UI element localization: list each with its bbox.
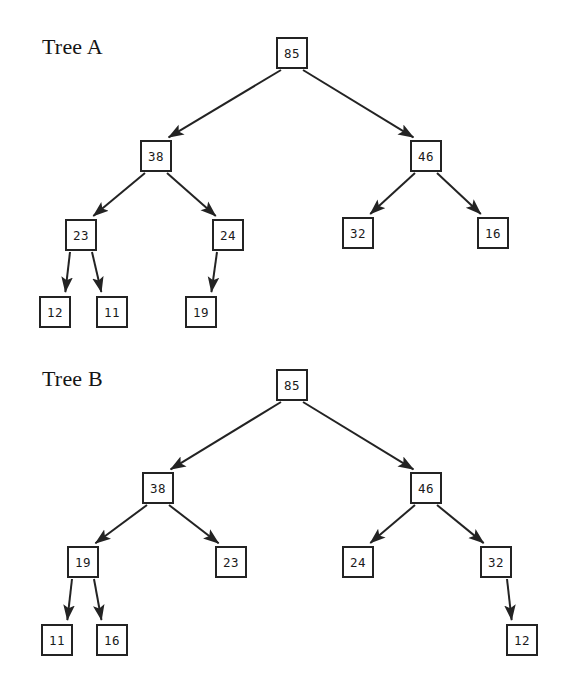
tree-edge	[303, 70, 413, 137]
tree-edge	[303, 402, 413, 469]
tree-edge	[67, 579, 72, 620]
tree-node: 24	[342, 546, 374, 578]
tree-edge	[169, 505, 219, 543]
tree-edge	[437, 505, 484, 543]
tree-edge	[211, 252, 217, 292]
tree-node: 46	[410, 140, 442, 172]
tree-node: 32	[342, 217, 374, 249]
tree-edge	[370, 505, 415, 543]
tree-node: 12	[506, 624, 538, 656]
tree-edge	[92, 252, 101, 292]
tree-edge	[94, 579, 101, 620]
tree-edge	[93, 173, 145, 216]
tree-node: 38	[142, 472, 174, 504]
tree-node: 11	[41, 624, 73, 656]
diagram-canvas: 8538462324321612111985384619232432111612…	[0, 0, 567, 679]
tree-node: 23	[215, 546, 247, 578]
tree-edge	[437, 173, 481, 214]
tree-node: 85	[276, 37, 308, 69]
tree-node: 19	[185, 296, 217, 328]
tree-node: 32	[480, 546, 512, 578]
tree-node: 11	[96, 296, 128, 328]
tree-node: 24	[212, 219, 244, 251]
tree-node: 38	[140, 140, 172, 172]
tree-edge	[167, 173, 216, 216]
tree-edge	[507, 579, 512, 620]
edge-group	[65, 70, 511, 620]
tree-node: 46	[410, 472, 442, 504]
tree-node: 85	[276, 369, 308, 401]
tree-node: 19	[67, 546, 99, 578]
tree-edge	[95, 505, 147, 543]
tree-node: 16	[96, 624, 128, 656]
tree-node: 23	[65, 219, 97, 251]
tree-edge	[171, 402, 281, 469]
tree-node: 16	[477, 217, 509, 249]
tree-edge	[65, 252, 70, 292]
tree-node: 12	[39, 296, 71, 328]
tree-edge	[370, 173, 415, 214]
tree-edge	[169, 70, 281, 137]
